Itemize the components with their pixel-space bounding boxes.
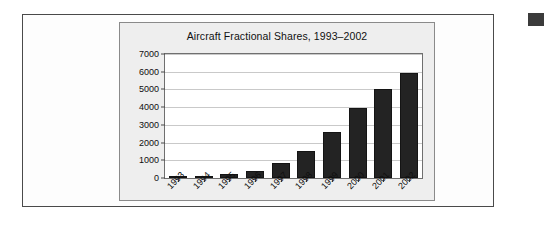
y-tick-mark — [161, 107, 165, 108]
plot-area: 01000200030004000500060007000 1993199419… — [164, 53, 423, 179]
y-tick-mark — [161, 124, 165, 125]
y-tick-label: 0 — [154, 173, 159, 183]
y-tick-label: 2000 — [139, 138, 159, 148]
x-tick-label: 1994 — [191, 170, 212, 191]
y-tick-label: 7000 — [139, 49, 159, 59]
chart-panel: Aircraft Fractional Shares, 1993–2002 01… — [119, 22, 435, 201]
y-tick-mark — [161, 178, 165, 179]
x-tick-label: 1995 — [216, 170, 237, 191]
y-tick-mark — [161, 71, 165, 72]
bar — [400, 73, 418, 178]
y-tick-mark — [161, 54, 165, 55]
gridline — [165, 72, 422, 73]
figure-frame: Aircraft Fractional Shares, 1993–2002 01… — [22, 14, 494, 207]
bar — [374, 89, 392, 178]
gridline — [165, 54, 422, 55]
y-tick-label: 5000 — [139, 84, 159, 94]
y-tick-label: 3000 — [139, 120, 159, 130]
y-tick-mark — [161, 160, 165, 161]
x-tick-label: 1993 — [165, 170, 186, 191]
y-tick-label: 4000 — [139, 102, 159, 112]
bar — [349, 108, 367, 178]
y-tick-mark — [161, 142, 165, 143]
y-tick-mark — [161, 89, 165, 90]
y-tick-label: 6000 — [139, 67, 159, 77]
selection-marker-icon[interactable] — [528, 13, 544, 26]
chart-title: Aircraft Fractional Shares, 1993–2002 — [120, 30, 434, 42]
y-tick-label: 1000 — [139, 155, 159, 165]
